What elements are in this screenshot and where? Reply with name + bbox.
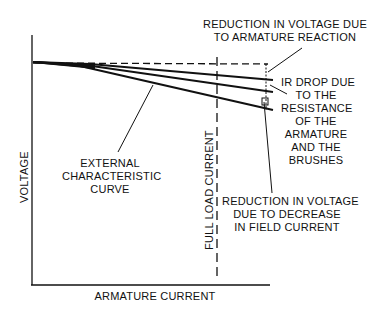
external-curve-label: EXTERNAL CHARACTERISTIC CURVE bbox=[62, 157, 158, 196]
field-current-leader bbox=[264, 102, 272, 193]
ir-drop-label: IR DROP DUE TO THE RESISTANCE OF THE ARM… bbox=[281, 76, 351, 167]
field-current-label: REDUCTION IN VOLTAGE DUE TO DECREASE IN … bbox=[222, 195, 352, 234]
y-axis-label: VOLTAGE bbox=[18, 151, 30, 203]
x-axis-label: ARMATURE CURRENT bbox=[90, 290, 220, 303]
armature-reaction-leader bbox=[268, 48, 302, 72]
external-curve-leader bbox=[118, 85, 153, 152]
armature-reaction-label: REDUCTION IN VOLTAGE DUE TO ARMATURE REA… bbox=[200, 18, 370, 44]
field-drop-bracket bbox=[262, 98, 268, 105]
full-load-current-label: FULL LOAD CURRENT bbox=[203, 130, 215, 250]
